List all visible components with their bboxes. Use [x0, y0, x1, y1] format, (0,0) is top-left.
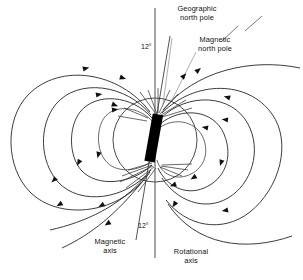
angle-label-bottom: 12° [138, 222, 149, 229]
angle-label-top: 12° [141, 43, 152, 50]
label-rotational-axis: Rotational axis [160, 248, 222, 265]
field-lines-left [11, 75, 153, 210]
label-geographic-north-pole: Geographic north pole [161, 5, 233, 22]
diagram-canvas [0, 0, 303, 280]
magnetic-field-diagram: Geographic north pole Magnetic north pol… [0, 0, 303, 280]
field-line-stubs-south [120, 163, 192, 192]
field-direction-arrows [50, 65, 231, 228]
label-magnetic-axis: Magnetic axis [79, 238, 141, 255]
field-lines-right [157, 65, 300, 244]
bar-magnet [144, 113, 163, 162]
label-magnetic-north-pole: Magnetic north pole [180, 36, 250, 53]
